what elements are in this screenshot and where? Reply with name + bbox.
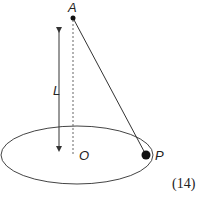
label-o: O: [79, 148, 89, 163]
bob-p: [142, 151, 151, 160]
diagram-canvas: A L O P (14): [0, 0, 200, 197]
equation-number: (14): [172, 176, 196, 192]
label-a: A: [67, 0, 77, 15]
label-l: L: [53, 83, 60, 98]
pendulum-string: [73, 18, 146, 155]
label-p: P: [155, 148, 164, 163]
circular-orbit: [1, 126, 153, 184]
conical-pendulum-diagram: A L O P (14): [0, 0, 200, 197]
pivot-point-a: [71, 16, 76, 21]
